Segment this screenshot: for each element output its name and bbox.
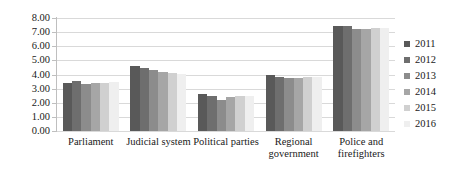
y-axis-tick-label: 8.00 xyxy=(2,13,50,24)
chart-legend: 201120122013201420152016 xyxy=(404,36,457,132)
bar xyxy=(361,29,370,131)
legend-item-2013[interactable]: 2013 xyxy=(404,68,457,84)
legend-item-label: 2011 xyxy=(415,39,436,50)
bar xyxy=(100,83,109,131)
bar xyxy=(177,74,186,131)
bar xyxy=(81,84,90,131)
y-axis-tick-label: 4.00 xyxy=(2,70,50,81)
bar-group xyxy=(130,18,186,131)
legend-item-label: 2014 xyxy=(415,87,436,98)
legend-item-2015[interactable]: 2015 xyxy=(404,100,457,116)
bar xyxy=(158,72,167,131)
y-axis-tick xyxy=(52,32,56,33)
bar-group xyxy=(63,18,119,131)
legend-item-label: 2015 xyxy=(415,103,436,114)
bar xyxy=(72,81,81,131)
y-axis-tick-label: 0.00 xyxy=(2,126,50,137)
y-axis-tick xyxy=(52,131,56,132)
bar xyxy=(217,100,226,131)
bar xyxy=(343,26,352,131)
y-axis-tick-label: 6.00 xyxy=(2,41,50,52)
legend-item-2012[interactable]: 2012 xyxy=(404,52,457,68)
y-axis-labels: 8.007.006.005.004.003.002.001.000.00 xyxy=(0,0,50,179)
y-axis-tick xyxy=(52,46,56,47)
legend-swatch-icon xyxy=(404,121,410,127)
bar xyxy=(245,96,254,131)
bar xyxy=(63,83,72,131)
bar xyxy=(294,78,303,131)
bar xyxy=(149,70,158,131)
bar-group xyxy=(266,18,322,131)
bar xyxy=(140,68,149,131)
y-axis-tick-label: 1.00 xyxy=(2,112,50,123)
legend-swatch-icon xyxy=(404,89,410,95)
legend-swatch-icon xyxy=(404,73,410,79)
bar xyxy=(198,94,207,131)
bar xyxy=(168,73,177,131)
legend-swatch-icon xyxy=(404,57,410,63)
y-axis-tick-label: 3.00 xyxy=(2,84,50,95)
bar xyxy=(207,96,216,131)
bar-chart: 8.007.006.005.004.003.002.001.000.00 Par… xyxy=(0,0,457,179)
legend-item-2014[interactable]: 2014 xyxy=(404,84,457,100)
bar xyxy=(226,97,235,131)
y-axis-tick-label: 7.00 xyxy=(2,27,50,38)
bar xyxy=(109,82,118,131)
bar xyxy=(91,83,100,131)
y-axis-tick-label: 2.00 xyxy=(2,98,50,109)
bar-group xyxy=(198,18,254,131)
bar xyxy=(380,28,389,131)
y-axis-tick xyxy=(52,75,56,76)
bar xyxy=(312,77,321,131)
legend-swatch-icon xyxy=(404,105,410,111)
legend-item-label: 2012 xyxy=(415,55,436,66)
plot-area xyxy=(57,18,395,131)
x-axis-category-label: Police and firefighters xyxy=(321,136,401,160)
bar xyxy=(371,28,380,131)
bar xyxy=(333,26,342,131)
y-axis-tick xyxy=(52,103,56,104)
bar-group xyxy=(333,18,389,131)
y-axis-tick xyxy=(52,18,56,19)
y-axis-tick-label: 5.00 xyxy=(2,55,50,66)
bar xyxy=(352,29,361,131)
bar xyxy=(303,77,312,131)
bar xyxy=(284,78,293,131)
bar xyxy=(266,75,275,131)
bar xyxy=(275,77,284,131)
gridline xyxy=(57,131,395,132)
bar xyxy=(130,66,139,131)
y-axis-tick xyxy=(52,60,56,61)
legend-item-2016[interactable]: 2016 xyxy=(404,116,457,132)
legend-item-label: 2013 xyxy=(415,71,436,82)
y-axis-tick xyxy=(52,89,56,90)
legend-item-label: 2016 xyxy=(415,119,436,130)
y-axis-tick xyxy=(52,117,56,118)
legend-swatch-icon xyxy=(404,41,410,47)
legend-item-2011[interactable]: 2011 xyxy=(404,36,457,52)
bar xyxy=(235,96,244,131)
